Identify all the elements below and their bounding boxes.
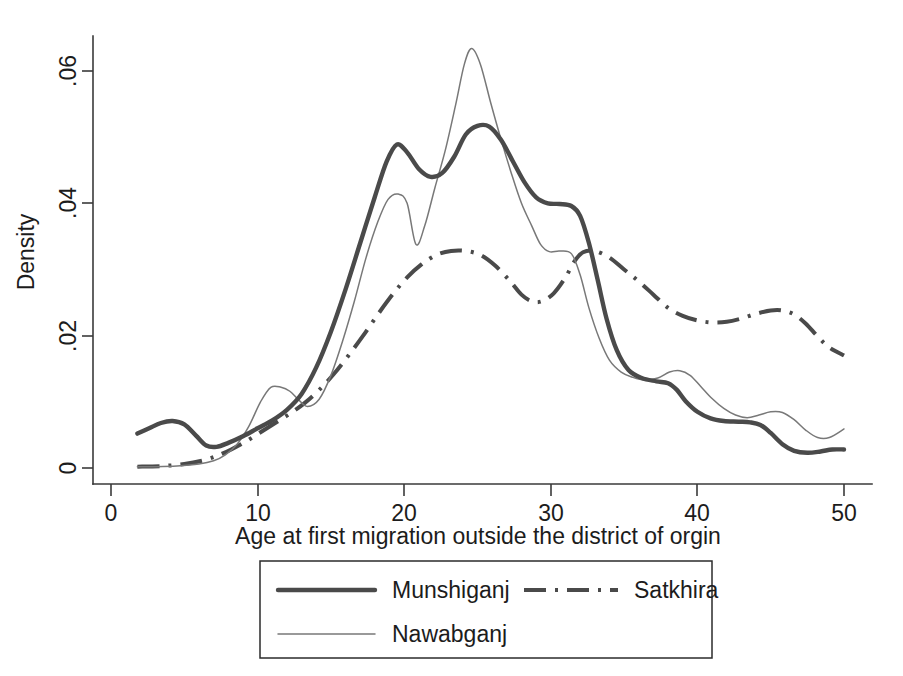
series-line-munshiganj (137, 125, 844, 453)
series-group (137, 49, 844, 467)
y-axis-title: Density (13, 213, 39, 290)
y-tick-label-0: 0 (55, 462, 81, 475)
chart-canvas: 0 .02 .04 .06 Density 0 10 20 30 40 50 A… (0, 0, 903, 676)
y-tick-label-04: .04 (55, 187, 81, 219)
x-tick-label-50: 50 (831, 500, 857, 526)
y-tick-label-06: .06 (55, 55, 81, 87)
legend: Munshiganj Satkhira Nawabganj (260, 561, 719, 658)
y-axis-ticks (82, 71, 93, 468)
x-axis-ticks (111, 484, 844, 496)
legend-label-satkhira: Satkhira (634, 577, 719, 603)
y-tick-label-02: .02 (55, 320, 81, 352)
series-line-nawabganj (137, 49, 844, 467)
x-axis-title: Age at first migration outside the distr… (235, 523, 721, 549)
x-tick-label-0: 0 (105, 500, 118, 526)
legend-label-munshiganj: Munshiganj (392, 577, 510, 603)
y-axis-tick-labels: 0 .02 .04 .06 (55, 55, 81, 474)
legend-label-nawabganj: Nawabganj (392, 621, 507, 647)
density-plot-figure: 0 .02 .04 .06 Density 0 10 20 30 40 50 A… (0, 0, 903, 676)
